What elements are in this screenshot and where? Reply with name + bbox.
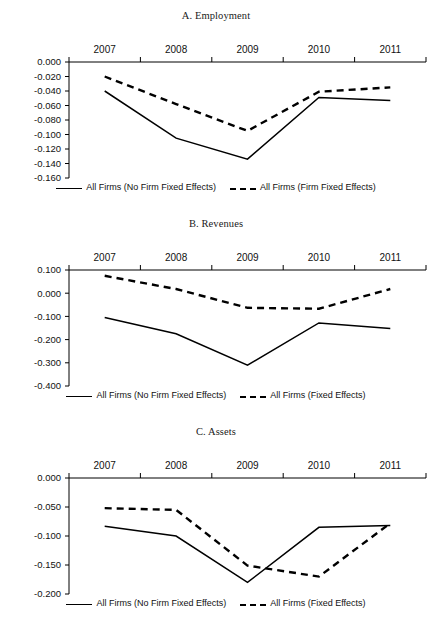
series-line-dashed bbox=[105, 276, 391, 309]
legend-line-solid-icon bbox=[56, 183, 82, 192]
legend-line-dashed-icon bbox=[240, 391, 266, 400]
legend-entry-dashed: All Firms (Firm Fixed Effects) bbox=[230, 182, 376, 193]
panel-a-plot: 0.000-0.020-0.040-0.060-0.080-0.100-0.12… bbox=[0, 24, 432, 184]
panel-b-legend: All Firms (No Firm Fixed Effects) All Fi… bbox=[0, 390, 432, 401]
panel-c-assets: C. Assets 0.000-0.050-0.100-0.150-0.2002… bbox=[0, 416, 432, 624]
legend-label-solid: All Firms (No Firm Fixed Effects) bbox=[86, 182, 216, 193]
series-line-dashed bbox=[105, 77, 391, 131]
legend-entry-dashed: All Firms (Fixed Effects) bbox=[240, 390, 365, 401]
y-tick-label: 0.100 bbox=[37, 264, 61, 275]
legend-line-dashed-icon bbox=[230, 183, 256, 192]
y-tick-label: -0.020 bbox=[34, 71, 61, 82]
y-tick-label: -0.100 bbox=[34, 530, 61, 541]
y-tick-label: -0.140 bbox=[34, 158, 61, 169]
y-tick-label: -0.100 bbox=[34, 129, 61, 140]
legend-line-solid-icon bbox=[66, 599, 92, 608]
panel-b-plot-svg: 0.1000.000-0.100-0.200-0.300-0.400200720… bbox=[0, 232, 432, 392]
panel-c-legend: All Firms (No Firm Fixed Effects) All Fi… bbox=[0, 598, 432, 609]
panel-b-revenues: B. Revenues 0.1000.000-0.100-0.200-0.300… bbox=[0, 208, 432, 416]
y-tick-label: 0.000 bbox=[37, 56, 61, 67]
legend-entry-dashed: All Firms (Fixed Effects) bbox=[240, 598, 365, 609]
legend-entry-solid: All Firms (No Firm Fixed Effects) bbox=[66, 598, 226, 609]
x-tick-label: 2008 bbox=[165, 252, 188, 263]
panel-b-plot: 0.1000.000-0.100-0.200-0.300-0.400200720… bbox=[0, 232, 432, 392]
x-tick-label: 2009 bbox=[236, 252, 259, 263]
panel-a-title: A. Employment bbox=[0, 9, 432, 22]
x-tick-label: 2010 bbox=[308, 252, 331, 263]
figure-panels-employment-revenues-assets: A. Employment 0.000-0.020-0.040-0.060-0.… bbox=[0, 0, 432, 624]
legend-label-solid: All Firms (No Firm Fixed Effects) bbox=[96, 390, 226, 401]
series-line-solid bbox=[105, 318, 391, 366]
legend-line-solid-icon bbox=[66, 391, 92, 400]
x-tick-label: 2010 bbox=[308, 460, 331, 471]
panel-c-title: C. Assets bbox=[0, 425, 432, 438]
panel-a-legend: All Firms (No Firm Fixed Effects) All Fi… bbox=[0, 182, 432, 193]
y-tick-label: 0.000 bbox=[37, 288, 61, 299]
y-tick-label: -0.200 bbox=[34, 334, 61, 345]
x-tick-label: 2007 bbox=[94, 44, 117, 55]
series-line-solid bbox=[105, 91, 391, 159]
x-tick-label: 2011 bbox=[380, 44, 402, 55]
y-tick-label: -0.050 bbox=[34, 501, 61, 512]
legend-label-dashed: All Firms (Fixed Effects) bbox=[270, 390, 365, 401]
y-tick-label: -0.300 bbox=[34, 357, 61, 368]
legend-label-dashed: All Firms (Fixed Effects) bbox=[270, 598, 365, 609]
legend-entry-solid: All Firms (No Firm Fixed Effects) bbox=[56, 182, 216, 193]
panel-a-employment: A. Employment 0.000-0.020-0.040-0.060-0.… bbox=[0, 0, 432, 208]
series-line-dashed bbox=[105, 508, 391, 576]
legend-label-dashed: All Firms (Firm Fixed Effects) bbox=[260, 182, 376, 193]
x-tick-label: 2009 bbox=[236, 44, 259, 55]
x-tick-label: 2009 bbox=[236, 460, 259, 471]
x-tick-label: 2008 bbox=[165, 44, 188, 55]
y-tick-label: -0.100 bbox=[34, 311, 61, 322]
legend-entry-solid: All Firms (No Firm Fixed Effects) bbox=[66, 390, 226, 401]
x-tick-label: 2010 bbox=[308, 44, 331, 55]
x-tick-label: 2007 bbox=[94, 252, 117, 263]
y-tick-label: -0.120 bbox=[34, 143, 61, 154]
x-tick-label: 2008 bbox=[165, 460, 188, 471]
y-tick-label: -0.080 bbox=[34, 114, 61, 125]
y-tick-label: 0.000 bbox=[37, 472, 61, 483]
legend-label-solid: All Firms (No Firm Fixed Effects) bbox=[96, 598, 226, 609]
panel-b-title: B. Revenues bbox=[0, 217, 432, 230]
y-tick-label: -0.150 bbox=[34, 559, 61, 570]
legend-line-dashed-icon bbox=[240, 599, 266, 608]
y-tick-label: -0.040 bbox=[34, 85, 61, 96]
y-tick-label: -0.060 bbox=[34, 100, 61, 111]
x-tick-label: 2007 bbox=[94, 460, 117, 471]
panel-c-plot: 0.000-0.050-0.100-0.150-0.20020072008200… bbox=[0, 440, 432, 600]
x-tick-label: 2011 bbox=[380, 460, 402, 471]
panel-c-plot-svg: 0.000-0.050-0.100-0.150-0.20020072008200… bbox=[0, 440, 432, 600]
x-tick-label: 2011 bbox=[380, 252, 402, 263]
panel-a-plot-svg: 0.000-0.020-0.040-0.060-0.080-0.100-0.12… bbox=[0, 24, 432, 184]
